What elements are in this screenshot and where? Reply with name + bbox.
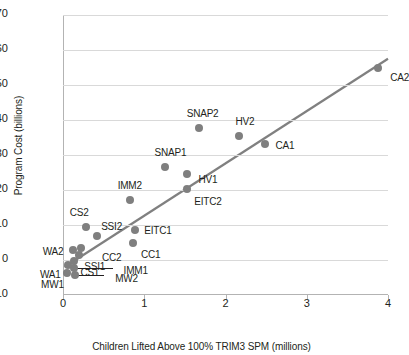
data-point-cc1 xyxy=(129,239,137,247)
y-axis-tick-label: 10 xyxy=(0,217,8,229)
x-axis-tick-label: 4 xyxy=(373,297,403,309)
data-point-mw1 xyxy=(63,269,71,277)
y-axis-title: Program Cost (billions) xyxy=(13,36,24,256)
data-point-eitc2 xyxy=(183,185,191,193)
data-point-label-snap2: SNAP2 xyxy=(187,108,219,119)
data-point-label-hv2: HV2 xyxy=(236,116,255,127)
data-point-label-ssi2: SSI2 xyxy=(101,221,122,232)
data-point-label-cc1: CC1 xyxy=(141,249,160,260)
data-point-imm2 xyxy=(126,196,134,204)
data-point-label-cs1: CS1 xyxy=(80,267,99,278)
x-axis-title: Children Lifted Above 100% TRIM3 SPM (mi… xyxy=(0,341,403,352)
data-point-label-mw2: MW2 xyxy=(115,273,138,284)
y-axis-tick-label: 60 xyxy=(0,42,8,54)
data-point-label-snap1: SNAP1 xyxy=(155,147,187,158)
gridline xyxy=(63,190,388,191)
data-point-snap2 xyxy=(195,124,203,132)
data-point-ca2 xyxy=(374,64,382,72)
gridline xyxy=(63,155,388,156)
data-point-hv2 xyxy=(235,132,243,140)
gridline xyxy=(63,15,388,16)
data-point-label-hv1: HV1 xyxy=(199,174,218,185)
data-point-mw2 xyxy=(71,271,79,279)
plot-area: CA2SNAP2HV2CA1SNAP1HV1EITC2IMM2CS2EITC1S… xyxy=(63,15,388,295)
data-point-label-eitc1: EITC1 xyxy=(144,225,171,236)
y-axis-tick-label: 20 xyxy=(0,182,8,194)
y-axis-tick-label: 0 xyxy=(0,252,8,264)
y-axis-tick-label: 70 xyxy=(0,7,8,19)
data-point-ssi2 xyxy=(93,232,101,240)
data-point-label-ca1: CA1 xyxy=(276,140,295,151)
x-axis-tick-label: 2 xyxy=(211,297,241,309)
gridline xyxy=(63,50,388,51)
data-point-label-cs2: CS2 xyxy=(70,207,89,218)
data-point-snap1 xyxy=(161,163,169,171)
gridline xyxy=(63,85,388,86)
data-point-eitc1 xyxy=(131,226,139,234)
data-point-label-mw1: MW1 xyxy=(41,279,64,290)
x-axis-tick-label: 1 xyxy=(129,297,159,309)
x-axis-tick-label: 0 xyxy=(48,297,78,309)
gridline xyxy=(63,120,388,121)
data-point-label-ca2: CA2 xyxy=(390,72,409,83)
data-point-label-eitc2: EITC2 xyxy=(194,196,221,207)
data-point-ca1 xyxy=(261,140,269,148)
data-point-label-wa2: WA2 xyxy=(43,246,64,257)
data-point-cs2 xyxy=(82,223,90,231)
y-axis-tick-label: 50 xyxy=(0,77,8,89)
y-axis-tick-label: 30 xyxy=(0,147,8,159)
data-point-hv1 xyxy=(183,170,191,178)
data-point-label-imm2: IMM2 xyxy=(118,180,142,191)
x-axis-tick-label: 3 xyxy=(292,297,322,309)
y-axis-tick-label: -10 xyxy=(0,287,8,299)
y-axis-tick-label: 40 xyxy=(0,112,8,124)
